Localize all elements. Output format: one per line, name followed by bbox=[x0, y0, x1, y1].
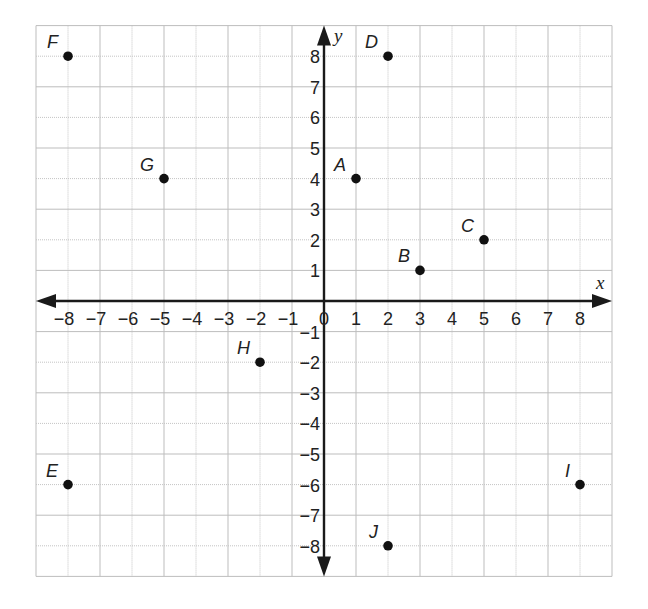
y-axis-arrow-down-icon bbox=[317, 556, 331, 576]
x-axis-title: x bbox=[595, 272, 605, 293]
y-tick-label: 4 bbox=[310, 170, 320, 190]
y-tick-label: 5 bbox=[310, 139, 320, 159]
x-tick-label: 2 bbox=[383, 309, 393, 329]
point-dot bbox=[255, 357, 265, 367]
point-dot bbox=[63, 480, 73, 490]
y-axis-arrow-up-icon bbox=[317, 26, 331, 46]
x-tick-label: −4 bbox=[182, 309, 203, 329]
x-tick-label: −8 bbox=[54, 309, 75, 329]
point-dot bbox=[63, 51, 73, 61]
point-label: C bbox=[461, 216, 475, 236]
x-tick-label: −6 bbox=[118, 309, 139, 329]
point-label: J bbox=[368, 522, 379, 542]
point-label: B bbox=[398, 246, 410, 266]
y-tick-label: −6 bbox=[299, 476, 320, 496]
point-label: H bbox=[237, 338, 251, 358]
point-dot bbox=[383, 541, 393, 551]
y-tick-label: −1 bbox=[299, 323, 320, 343]
axes: x y bbox=[36, 25, 612, 577]
point-label: G bbox=[140, 155, 154, 175]
x-axis-arrow-left-icon bbox=[36, 294, 56, 308]
x-tick-label: 4 bbox=[447, 309, 457, 329]
x-tick-label: 1 bbox=[351, 309, 361, 329]
y-tick-label: 8 bbox=[310, 47, 320, 67]
y-tick-label: −2 bbox=[299, 353, 320, 373]
x-tick-label: 5 bbox=[479, 309, 489, 329]
point-dot bbox=[383, 51, 393, 61]
x-tick-label: 7 bbox=[543, 309, 553, 329]
y-tick-label: −3 bbox=[299, 384, 320, 404]
y-tick-label: −5 bbox=[299, 445, 320, 465]
point-dot bbox=[159, 174, 169, 184]
y-tick-label: −8 bbox=[299, 537, 320, 557]
point-dot bbox=[415, 266, 425, 276]
y-tick-label: −4 bbox=[299, 414, 320, 434]
x-tick-label: −7 bbox=[86, 309, 107, 329]
x-axis-arrow-right-icon bbox=[592, 294, 612, 308]
y-tick-label: −7 bbox=[299, 506, 320, 526]
x-tick-label: 0 bbox=[319, 309, 329, 329]
x-tick-label: 6 bbox=[511, 309, 521, 329]
point-label: F bbox=[47, 32, 59, 52]
y-axis-title: y bbox=[332, 25, 343, 46]
point-dot bbox=[575, 480, 585, 490]
y-tick-label: 1 bbox=[310, 261, 320, 281]
point-dot bbox=[479, 235, 489, 245]
x-tick-label: 3 bbox=[415, 309, 425, 329]
x-tick-label: −5 bbox=[150, 309, 171, 329]
x-tick-label: −3 bbox=[214, 309, 235, 329]
y-tick-label: 3 bbox=[310, 200, 320, 220]
point-dot bbox=[351, 174, 361, 184]
x-tick-label: −2 bbox=[246, 309, 267, 329]
y-tick-label: 6 bbox=[310, 108, 320, 128]
y-tick-label: 7 bbox=[310, 78, 320, 98]
point-label: A bbox=[333, 155, 346, 175]
point-label: D bbox=[365, 32, 378, 52]
coordinate-plane: x y −8−7−6−5−4−3−2−1012345678 −8−7−6−5−4… bbox=[0, 0, 648, 609]
x-tick-label: −1 bbox=[278, 309, 299, 329]
y-tick-label: 2 bbox=[310, 231, 320, 251]
x-tick-label: 8 bbox=[575, 309, 585, 329]
point-label: E bbox=[46, 461, 59, 481]
point-label: I bbox=[565, 461, 570, 481]
